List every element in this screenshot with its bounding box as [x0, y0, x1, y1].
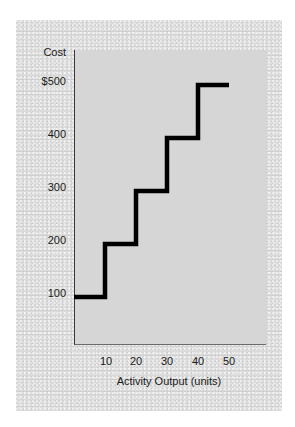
- x-tick-20: 20: [130, 355, 142, 367]
- y-tick-100: 100: [48, 287, 66, 299]
- step-cost-line: [74, 85, 229, 297]
- x-tick-40: 40: [192, 355, 204, 367]
- x-tick-30: 30: [161, 355, 173, 367]
- step-cost-chart: [0, 0, 295, 427]
- y-tick-200: 200: [48, 234, 66, 246]
- y-tick-400: 400: [48, 128, 66, 140]
- y-tick-300: 300: [48, 181, 66, 193]
- x-tick-10: 10: [100, 355, 112, 367]
- x-axis-title: Activity Output (units): [117, 375, 222, 387]
- y-axis-title: Cost: [43, 46, 66, 58]
- x-tick-50: 50: [223, 355, 235, 367]
- y-tick-500: $500: [42, 75, 66, 87]
